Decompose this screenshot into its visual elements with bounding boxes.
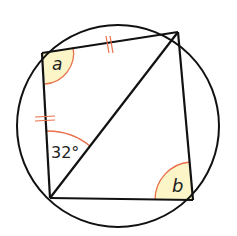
cyclic-quadrilateral-figure: a b 32° <box>0 0 237 236</box>
angle-a-label: a <box>52 54 62 74</box>
given-angle-label: 32° <box>51 143 79 162</box>
diagram-canvas: a b 32° <box>0 0 237 236</box>
angle-b-label: b <box>172 175 183 196</box>
equal-tick-top <box>106 36 113 53</box>
